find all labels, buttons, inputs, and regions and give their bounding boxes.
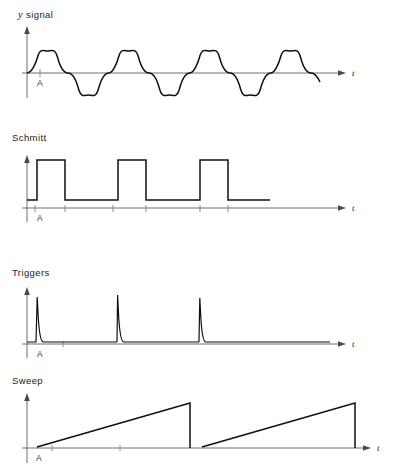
- t-axis-arrowhead-triggers: [338, 341, 346, 347]
- t-axis-label-signal: t: [352, 68, 355, 78]
- panel-label-sweep: Sweep: [12, 375, 43, 386]
- panel-label-triggers: Triggers: [12, 267, 50, 278]
- y-axis-arrowhead-triggers: [24, 287, 30, 295]
- trace-square: [27, 160, 270, 200]
- t-axis-label-triggers: t: [352, 339, 355, 349]
- panel-label-italic-y: y: [17, 9, 23, 20]
- y-axis-arrowhead-schmitt: [24, 155, 30, 163]
- waveform-figure: ysignal t A Schmitt t A Triggers: [0, 0, 395, 475]
- panel-triggers: Triggers t A: [12, 267, 355, 359]
- trace-spike-2: [117, 295, 199, 342]
- marker-label-signal: A: [37, 78, 43, 88]
- t-axis-arrowhead-sweep: [363, 445, 371, 451]
- panel-schmitt: Schmitt t A: [12, 132, 355, 223]
- marker-label-schmitt: A: [37, 213, 43, 223]
- panel-label-schmitt: Schmitt: [12, 132, 46, 143]
- marker-label-sweep: A: [36, 453, 42, 463]
- trace-sawtooth-1: [37, 403, 190, 448]
- t-axis-label-schmitt: t: [352, 203, 355, 213]
- t-axis-arrowhead-signal: [338, 70, 346, 76]
- panel-y-signal: ysignal t A: [17, 9, 355, 98]
- trace-sawtooth-2: [202, 403, 355, 448]
- t-axis-label-sweep: t: [377, 443, 380, 453]
- y-axis-arrowhead-signal: [24, 26, 30, 34]
- panel-label-y-signal: ysignal: [17, 9, 53, 20]
- trace-spike-1: [27, 297, 117, 342]
- trace-spike-3: [199, 298, 330, 342]
- y-axis-arrowhead-sweep: [24, 393, 30, 401]
- panel-sweep: Sweep t A: [12, 375, 380, 463]
- marker-label-triggers: A: [37, 349, 43, 359]
- t-axis-arrowhead-schmitt: [338, 205, 346, 211]
